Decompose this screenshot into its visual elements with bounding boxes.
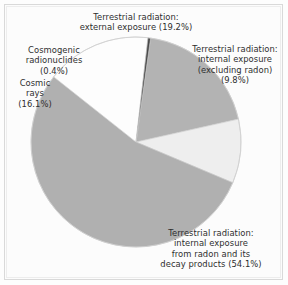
slice-label-cosmic-rays: Cosmic rays (16.1%) xyxy=(4,78,66,109)
slice-label-radon-decay-products: Terrestrial radiation: internal exposure… xyxy=(140,228,282,269)
pie-chart-figure: Terrestrial radiation: external exposure… xyxy=(0,0,288,285)
slice-label-cosmogenic-radionuclides: Cosmogenic radionuclides (0.4%) xyxy=(8,45,100,76)
slice-label-internal-excluding-radon: Terrestrial radiation: internal exposure… xyxy=(184,44,286,85)
slice-label-external-exposure: Terrestrial radiation: external exposure… xyxy=(62,12,210,33)
